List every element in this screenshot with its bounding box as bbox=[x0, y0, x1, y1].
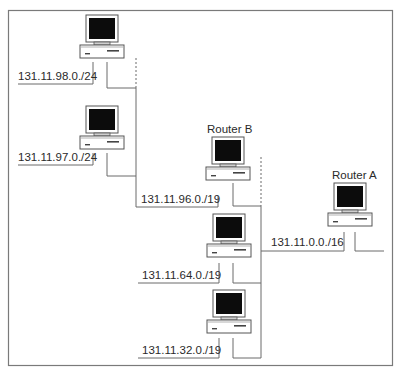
subnet-32-link bbox=[233, 338, 261, 358]
router-b bbox=[206, 137, 250, 180]
host-subnet-32 bbox=[207, 290, 251, 333]
router-a bbox=[328, 183, 372, 226]
computer-icon bbox=[207, 290, 251, 333]
host-subnet-64 bbox=[207, 214, 251, 257]
subnet-98-label: 131.11.98.0./24 bbox=[18, 70, 98, 82]
router-b-link bbox=[233, 183, 261, 206]
router-b-label: Router B bbox=[207, 123, 253, 135]
subnet-64-label: 131.11.64.0./19 bbox=[142, 269, 221, 281]
subnet-96-label: 131.11.96.0./19 bbox=[141, 193, 220, 205]
subnet-64-link bbox=[233, 263, 261, 283]
subnet-32-label: 131.11.32.0./19 bbox=[142, 344, 221, 356]
computer-icon bbox=[80, 15, 124, 58]
router-a-label: Router A bbox=[332, 169, 377, 181]
router-a-link bbox=[355, 232, 384, 251]
network-diagram: 131.11.98.0./24 131.11.97.0./24 131.11.9… bbox=[0, 0, 402, 376]
host-subnet-97 bbox=[80, 106, 124, 149]
computer-icon bbox=[206, 137, 250, 180]
computer-icon bbox=[207, 214, 251, 257]
host-subnet-98 bbox=[80, 15, 124, 58]
computer-icon bbox=[80, 106, 124, 149]
computer-icon bbox=[328, 183, 372, 226]
subnet-0-label: 131.11.0.0./16 bbox=[271, 236, 344, 248]
subnet-97-label: 131.11.97.0./24 bbox=[18, 151, 98, 163]
